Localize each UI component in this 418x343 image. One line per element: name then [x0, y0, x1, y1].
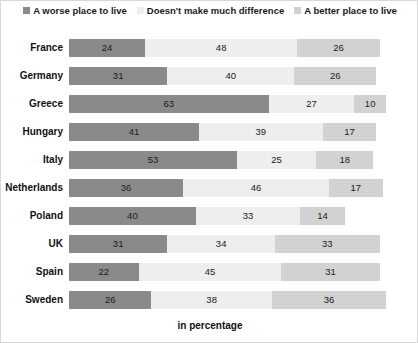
- chart-plot-area: France244826Germany314026Greece632710Hun…: [1, 31, 418, 316]
- bar-segment[interactable]: 36: [69, 179, 183, 197]
- bar-segment[interactable]: 26: [297, 39, 379, 57]
- bar-segment[interactable]: 10: [354, 95, 386, 113]
- bar-segment-value: 40: [167, 67, 294, 85]
- bar-segment-value: 38: [151, 291, 271, 309]
- chart-row: UK313433: [1, 235, 418, 253]
- bar-segment[interactable]: 24: [69, 39, 145, 57]
- chart-figure: A worse place to liveDoesn't make much d…: [0, 0, 418, 343]
- bar-segment[interactable]: 53: [69, 151, 237, 169]
- chart-row: Spain224531: [1, 263, 418, 281]
- legend-swatch-icon: [294, 7, 301, 14]
- bar-segment-value: 31: [281, 263, 379, 281]
- bar-segment-value: 33: [275, 235, 380, 253]
- stacked-bar: 532518: [69, 151, 386, 169]
- legend-item[interactable]: Doesn't make much difference: [137, 6, 284, 16]
- stacked-bar: 364617: [69, 179, 386, 197]
- category-label: Spain: [1, 263, 63, 281]
- bar-segment-value: 39: [199, 123, 323, 141]
- bar-segment-value: 46: [183, 179, 329, 197]
- chart-row: Sweden263836: [1, 291, 418, 309]
- bar-segment[interactable]: 38: [151, 291, 271, 309]
- bar-segment-value: 36: [272, 291, 386, 309]
- bar-segment[interactable]: 40: [69, 207, 196, 225]
- legend-item[interactable]: A better place to live: [294, 6, 397, 16]
- bar-segment-value: 41: [69, 123, 199, 141]
- chart-row: Germany314026: [1, 67, 418, 85]
- category-label: Poland: [1, 207, 63, 225]
- bar-segment-value: 25: [237, 151, 316, 169]
- bar-segment[interactable]: 48: [145, 39, 297, 57]
- bar-segment[interactable]: 26: [69, 291, 151, 309]
- stacked-bar: 313433: [69, 235, 386, 253]
- bar-segment[interactable]: 46: [183, 179, 329, 197]
- bar-segment-value: 22: [69, 263, 139, 281]
- bar-segment[interactable]: 18: [316, 151, 373, 169]
- chart-row: Greece632710: [1, 95, 418, 113]
- bar-segment-value: 40: [69, 207, 196, 225]
- bar-segment[interactable]: 39: [199, 123, 323, 141]
- category-label: France: [1, 39, 63, 57]
- legend-item[interactable]: A worse place to live: [23, 6, 127, 16]
- bar-segment[interactable]: 31: [69, 67, 167, 85]
- bar-segment-value: 34: [167, 235, 275, 253]
- category-label: Sweden: [1, 291, 63, 309]
- stacked-bar: 632710: [69, 95, 386, 113]
- category-label: Germany: [1, 67, 63, 85]
- stacked-bar: 244826: [69, 39, 386, 57]
- stacked-bar: 413917: [69, 123, 386, 141]
- stacked-bar: 314026: [69, 67, 386, 85]
- bar-segment-value: 14: [300, 207, 344, 225]
- bar-segment[interactable]: 14: [300, 207, 344, 225]
- bar-segment[interactable]: 36: [272, 291, 386, 309]
- chart-row: Hungary413917: [1, 123, 418, 141]
- category-label: Italy: [1, 151, 63, 169]
- bar-segment[interactable]: 17: [329, 179, 383, 197]
- bar-segment[interactable]: 63: [69, 95, 269, 113]
- stacked-bar: 263836: [69, 291, 386, 309]
- legend-swatch-icon: [137, 7, 144, 14]
- bar-segment-value: 26: [297, 39, 379, 57]
- category-label: UK: [1, 235, 63, 253]
- chart-row: Italy532518: [1, 151, 418, 169]
- bar-segment-value: 10: [354, 95, 386, 113]
- bar-segment[interactable]: 33: [196, 207, 301, 225]
- legend-swatch-icon: [23, 7, 30, 14]
- bar-segment[interactable]: 40: [167, 67, 294, 85]
- bar-segment-value: 45: [139, 263, 282, 281]
- bar-segment[interactable]: 31: [281, 263, 379, 281]
- legend-item-label: A worse place to live: [33, 6, 127, 16]
- category-label: Netherlands: [1, 179, 63, 197]
- bar-segment-value: 17: [329, 179, 383, 197]
- stacked-bar: 224531: [69, 263, 386, 281]
- legend-item-label: A better place to live: [304, 6, 397, 16]
- category-label: Hungary: [1, 123, 63, 141]
- bar-segment[interactable]: 27: [269, 95, 355, 113]
- bar-segment[interactable]: 22: [69, 263, 139, 281]
- bar-segment[interactable]: 41: [69, 123, 199, 141]
- bar-segment[interactable]: 25: [237, 151, 316, 169]
- chart-row: Netherlands364617: [1, 179, 418, 197]
- bar-segment-value: 27: [269, 95, 355, 113]
- bar-segment-value: 24: [69, 39, 145, 57]
- x-axis-label: in percentage: [1, 320, 418, 331]
- bar-segment-value: 17: [323, 123, 377, 141]
- bar-segment-value: 53: [69, 151, 237, 169]
- bar-segment-value: 36: [69, 179, 183, 197]
- bar-segment[interactable]: 17: [323, 123, 377, 141]
- chart-legend: A worse place to liveDoesn't make much d…: [1, 6, 418, 16]
- bar-segment-value: 18: [316, 151, 373, 169]
- bar-segment[interactable]: 34: [167, 235, 275, 253]
- bar-segment-value: 63: [69, 95, 269, 113]
- bar-segment-value: 26: [69, 291, 151, 309]
- bar-segment-value: 26: [294, 67, 376, 85]
- bar-segment-value: 33: [196, 207, 301, 225]
- bar-segment-value: 31: [69, 67, 167, 85]
- bar-segment[interactable]: 31: [69, 235, 167, 253]
- stacked-bar: 403314: [69, 207, 386, 225]
- bar-segment[interactable]: 45: [139, 263, 282, 281]
- chart-row: Poland403314: [1, 207, 418, 225]
- bar-segment[interactable]: 26: [294, 67, 376, 85]
- bar-segment[interactable]: 33: [275, 235, 380, 253]
- category-label: Greece: [1, 95, 63, 113]
- bar-segment-value: 31: [69, 235, 167, 253]
